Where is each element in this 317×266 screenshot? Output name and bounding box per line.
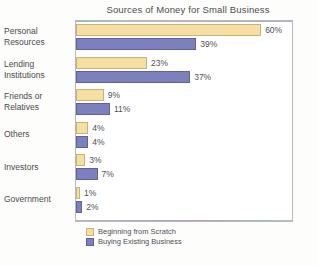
bar-buying[interactable] (76, 201, 82, 213)
bar-value-label: 37% (194, 71, 211, 83)
bar-buying[interactable] (76, 136, 88, 148)
legend-item[interactable]: Beginning from Scratch (86, 227, 182, 236)
bar-value-label: 4% (92, 122, 104, 134)
bar-scratch[interactable] (76, 24, 261, 36)
bar-value-label: 9% (108, 89, 120, 101)
legend-label: Buying Existing Business (98, 237, 182, 246)
bar-row[interactable]: 4% (76, 122, 105, 134)
bar-scratch[interactable] (76, 154, 85, 166)
bar-row[interactable]: 37% (76, 71, 211, 83)
legend-label: Beginning from Scratch (98, 227, 176, 236)
bar-row[interactable]: 9% (76, 89, 120, 101)
bar-value-label: 39% (200, 38, 217, 50)
bar-scratch[interactable] (76, 187, 80, 199)
bar-buying[interactable] (76, 71, 190, 83)
category-axis-labels: PersonalResourcesLendingInstitutionsFrie… (4, 21, 72, 221)
bar-scratch[interactable] (76, 122, 88, 134)
bar-group: 60%39% (76, 24, 292, 52)
bar-row[interactable]: 3% (76, 154, 102, 166)
bar-value-label: 23% (151, 57, 168, 69)
category-label: Government (4, 194, 72, 205)
chart-title: Sources of Money for Small Business (78, 4, 298, 15)
bar-row[interactable]: 39% (76, 38, 217, 50)
bar-row[interactable]: 60% (76, 24, 282, 36)
category-label: Others (4, 129, 72, 140)
bar-value-label: 2% (86, 201, 98, 213)
category-label: PersonalResources (4, 26, 72, 48)
bar-row[interactable]: 7% (76, 168, 114, 180)
bar-buying[interactable] (76, 38, 196, 50)
bar-value-label: 3% (89, 154, 101, 166)
chart-legend: Beginning from ScratchBuying Existing Bu… (86, 227, 182, 247)
chart-figure: Sources of Money for Small Business Pers… (0, 0, 317, 266)
category-label: LendingInstitutions (4, 59, 72, 81)
bar-group: 23%37% (76, 57, 292, 85)
bar-value-label: 4% (92, 136, 104, 148)
bar-value-label: 7% (102, 168, 114, 180)
plot-body: 60%39%23%37%9%11%4%4%3%7%1%2% (76, 21, 292, 221)
bar-buying[interactable] (76, 103, 110, 115)
bar-group: 3%7% (76, 154, 292, 182)
bar-value-label: 60% (265, 24, 282, 36)
bar-row[interactable]: 11% (76, 103, 130, 115)
bar-group: 1%2% (76, 187, 292, 215)
bar-row[interactable]: 2% (76, 201, 98, 213)
legend-swatch-buying (86, 238, 94, 246)
category-label: Friends orRelatives (4, 91, 72, 113)
bar-group: 4%4% (76, 122, 292, 150)
legend-item[interactable]: Buying Existing Business (86, 237, 182, 246)
bar-buying[interactable] (76, 168, 98, 180)
bar-row[interactable]: 23% (76, 57, 168, 69)
bar-group: 9%11% (76, 89, 292, 117)
bar-scratch[interactable] (76, 89, 104, 101)
bar-value-label: 11% (114, 103, 130, 115)
category-label: Investors (4, 162, 72, 173)
legend-swatch-scratch (86, 228, 94, 236)
bar-row[interactable]: 4% (76, 136, 105, 148)
bar-value-label: 1% (84, 187, 96, 199)
bar-row[interactable]: 1% (76, 187, 96, 199)
bar-scratch[interactable] (76, 57, 147, 69)
